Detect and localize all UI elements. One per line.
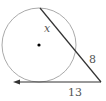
secant-tangent-diagram: x 8 13 bbox=[0, 0, 106, 101]
label-tangent-length: 13 bbox=[68, 86, 82, 99]
label-external-segment: 8 bbox=[89, 53, 96, 66]
center-point bbox=[37, 43, 40, 46]
secant-line bbox=[40, 8, 101, 82]
arrow-left-icon bbox=[13, 80, 20, 85]
label-x: x bbox=[44, 22, 51, 35]
